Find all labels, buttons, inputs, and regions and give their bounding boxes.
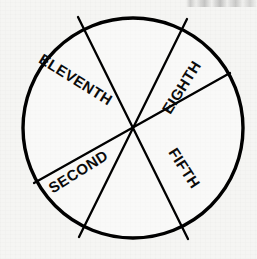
fraction-circle-diagram: ELEVENTH EIGHTH FIFTH SECOND [0, 0, 257, 259]
circle-wheel-graphic: ELEVENTH EIGHTH FIFTH SECOND [0, 0, 257, 259]
